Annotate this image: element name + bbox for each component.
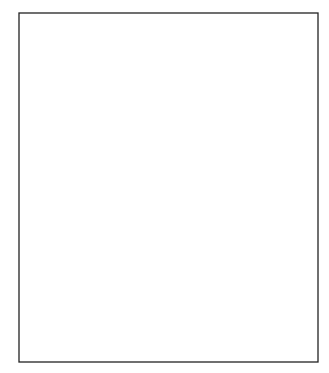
- plot-frame: [19, 13, 318, 362]
- line-chart: [0, 0, 329, 373]
